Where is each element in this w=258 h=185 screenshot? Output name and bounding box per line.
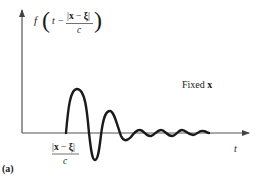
- delay-marker-label: |x − ξ| c: [52, 142, 79, 166]
- panel-label: (a): [2, 163, 14, 175]
- time-symbol: t: [52, 15, 55, 26]
- fixed-x-annotation: Fixed x: [182, 79, 212, 90]
- waveform-diagram: f ( t − |x − ξ| c ) Fixed x |x − ξ| c t …: [0, 0, 258, 185]
- numerator: |x − ξ|: [67, 11, 90, 22]
- minus-sign: −: [58, 15, 64, 26]
- open-paren: (: [42, 7, 50, 33]
- denominator: c: [77, 25, 82, 35]
- close-paren: ): [94, 7, 102, 33]
- delay-numerator: |x − ξ|: [52, 142, 75, 153]
- delay-denominator: c: [63, 156, 68, 166]
- x-axis-label: t: [234, 143, 237, 154]
- damped-waveform-curve: [66, 89, 209, 160]
- y-axis-label: f ( t − |x − ξ| c ): [34, 7, 102, 35]
- function-symbol: f: [34, 14, 39, 26]
